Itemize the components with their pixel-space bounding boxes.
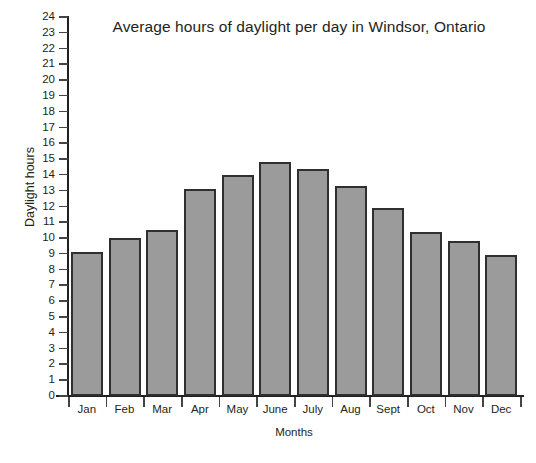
bar — [485, 255, 517, 396]
bar — [146, 230, 178, 396]
y-tick-mark — [59, 16, 68, 18]
bar — [109, 238, 141, 396]
x-tick-label: Nov — [445, 403, 483, 415]
y-tick-mark — [59, 348, 68, 350]
bar — [259, 162, 291, 396]
bar — [71, 252, 103, 396]
y-tick-mark — [59, 253, 68, 255]
y-tick-label: 0 — [49, 388, 55, 402]
y-tick-label: 17 — [42, 120, 55, 134]
x-tick-label: Aug — [332, 403, 370, 415]
bar — [372, 208, 404, 396]
x-tick-label: Apr — [181, 403, 219, 415]
y-tick-mark — [59, 142, 68, 144]
y-tick-mark — [59, 190, 68, 192]
y-tick-mark — [59, 316, 68, 318]
y-tick-label: 23 — [42, 25, 55, 39]
bar — [184, 189, 216, 396]
bar — [335, 186, 367, 396]
y-tick-mark — [59, 111, 68, 113]
y-tick-label: 24 — [42, 9, 55, 23]
y-tick-mark — [59, 379, 68, 381]
y-tick-label: 18 — [42, 104, 55, 118]
x-tick-label: Feb — [106, 403, 144, 415]
y-tick-mark — [59, 332, 68, 334]
x-tick-label: Oct — [407, 403, 445, 415]
y-tick-mark — [59, 284, 68, 286]
y-tick-mark — [59, 79, 68, 81]
y-tick-mark — [59, 237, 68, 239]
y-tick-label: 7 — [49, 277, 55, 291]
x-tick-label: Mar — [143, 403, 181, 415]
x-tick-label: Sept — [369, 403, 407, 415]
x-tick-mark — [520, 397, 522, 407]
y-tick-mark — [59, 395, 68, 397]
x-tick-label: Dec — [482, 403, 520, 415]
y-axis-title: Daylight hours — [23, 117, 37, 257]
y-tick-mark — [59, 300, 68, 302]
y-tick-label: 3 — [49, 341, 55, 355]
x-tick-label: July — [294, 403, 332, 415]
y-tick-mark — [59, 158, 68, 160]
y-tick-mark — [59, 32, 68, 34]
x-axis-title: Months — [68, 426, 520, 438]
y-tick-label: 11 — [43, 214, 55, 228]
bar — [410, 232, 442, 396]
y-tick-label: 22 — [42, 41, 55, 55]
y-tick-mark — [59, 363, 68, 365]
y-tick-label: 2 — [49, 356, 55, 370]
y-tick-mark — [59, 63, 68, 65]
y-tick-mark — [59, 206, 68, 208]
x-tick-label: June — [256, 403, 294, 415]
y-tick-label: 6 — [49, 293, 55, 307]
y-tick-label: 15 — [42, 151, 55, 165]
y-tick-mark — [59, 269, 68, 271]
daylight-bar-chart: Average hours of daylight per day in Win… — [0, 0, 536, 463]
y-tick-mark — [59, 127, 68, 129]
y-tick-mark — [59, 48, 68, 50]
y-tick-label: 14 — [42, 167, 55, 181]
bar-series — [68, 17, 520, 396]
y-tick-label: 8 — [49, 262, 55, 276]
x-tick-label: May — [219, 403, 257, 415]
bar — [448, 241, 480, 396]
y-tick-label: 1 — [49, 372, 55, 386]
y-tick-label: 19 — [42, 88, 55, 102]
y-tick-label: 9 — [49, 246, 55, 260]
y-tick-mark — [59, 95, 68, 97]
y-tick-label: 10 — [42, 230, 55, 244]
y-tick-label: 4 — [49, 325, 55, 339]
y-tick-mark — [59, 174, 68, 176]
bar — [222, 175, 254, 396]
y-tick-label: 13 — [42, 183, 55, 197]
bar — [297, 169, 329, 396]
y-tick-label: 16 — [42, 135, 55, 149]
y-tick-label: 20 — [42, 72, 55, 86]
y-tick-label: 21 — [42, 56, 55, 70]
y-tick-label: 5 — [49, 309, 55, 323]
x-tick-label: Jan — [68, 403, 106, 415]
y-tick-label: 12 — [42, 199, 55, 213]
y-tick-mark — [59, 221, 68, 223]
